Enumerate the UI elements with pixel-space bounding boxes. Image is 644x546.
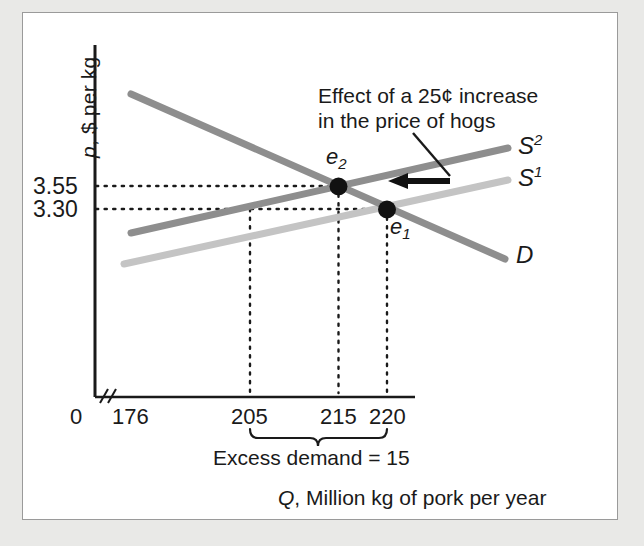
x-axis-caption-symbol: Q	[278, 486, 294, 509]
equilibrium-point-e2[interactable]	[330, 178, 348, 196]
curve-label-s1: S1	[518, 164, 542, 190]
equilibrium-label-e2-subscript: 2	[338, 155, 346, 172]
quantity-tick-label-220: 220	[369, 406, 406, 428]
equilibrium-label-e1-subscript: 1	[402, 225, 410, 242]
curve-label-s2-superscript: 2	[534, 131, 542, 148]
quantity-tick-label-176: 176	[112, 406, 149, 428]
origin-label: 0	[70, 406, 82, 428]
price-tick-label-330: 3.30	[33, 198, 78, 221]
quantity-tick-label-205: 205	[231, 406, 268, 428]
y-axis-title: p, $ per kg	[78, 57, 99, 158]
excess-demand-brace	[250, 429, 387, 446]
quantity-tick-label-215: 215	[320, 406, 357, 428]
annotation-line-1: Effect of a 25¢ increase	[318, 85, 538, 106]
annotation-line-2: in the price of hogs	[318, 110, 495, 131]
price-tick-label-355: 3.55	[33, 175, 78, 198]
equilibrium-label-e1-base: e	[390, 214, 402, 239]
y-axis-title-rest: , $ per kg	[77, 57, 100, 147]
x-axis-caption: Q, Million kg of pork per year	[278, 487, 546, 508]
x-axis-caption-rest: , Million kg of pork per year	[294, 486, 546, 509]
curve-label-s2: S2	[518, 132, 542, 158]
curve-label-d: D	[516, 243, 533, 267]
equilibrium-label-e2-base: e	[326, 144, 338, 169]
equilibrium-label-e1: e1	[390, 216, 411, 241]
equilibrium-label-e2: e2	[326, 146, 347, 171]
excess-demand-label: Excess demand = 15	[213, 447, 410, 468]
y-axis-title-symbol: p	[77, 146, 100, 158]
curve-label-s1-base: S	[518, 164, 534, 191]
figure-container: p, $ per kg 3.55 3.30 0 176 205 215 220 …	[0, 0, 644, 546]
curve-label-s1-superscript: 1	[534, 163, 542, 180]
curve-label-s2-base: S	[518, 132, 534, 159]
